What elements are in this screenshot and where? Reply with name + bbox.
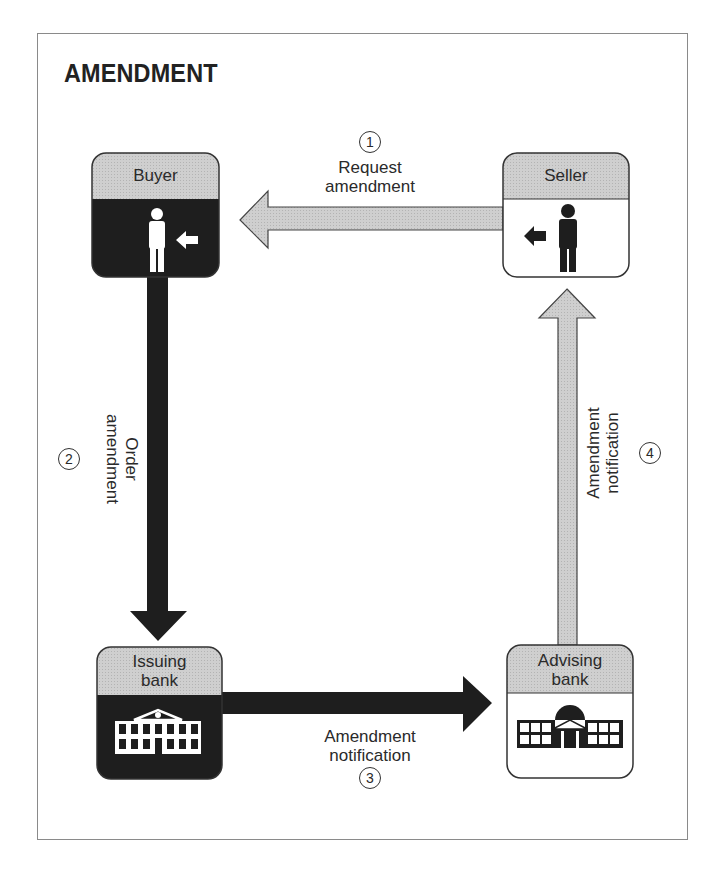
- step-3-label: Amendment notification: [300, 727, 440, 765]
- step-4-line1: Amendment: [584, 378, 603, 528]
- step-number-1: 1: [359, 131, 381, 153]
- step-number-2: 2: [58, 448, 80, 470]
- issuing-bank-label-line2: bank: [97, 671, 222, 690]
- step-4-line2: notification: [603, 378, 622, 528]
- arrow-amendment-notification-3: [222, 676, 492, 732]
- step-1-line1: Request: [300, 158, 440, 177]
- issuing-bank-label: Issuing bank: [97, 652, 222, 690]
- advising-bank-label-line2: bank: [507, 670, 633, 689]
- step-2-line1: Order: [122, 389, 141, 529]
- step-2-line2: amendment: [103, 389, 122, 529]
- step-number-3: 3: [359, 767, 381, 789]
- buyer-label: Buyer: [92, 166, 219, 185]
- issuing-bank-label-line1: Issuing: [97, 652, 222, 671]
- step-2-label: Order amendment: [103, 389, 141, 529]
- step-1-label: Request amendment: [300, 158, 440, 196]
- arrow-request-amendment: [240, 191, 503, 248]
- step-number-4: 4: [639, 442, 661, 464]
- seller-label: Seller: [503, 166, 629, 185]
- advising-bank-label: Advising bank: [507, 651, 633, 689]
- step-3-line1: Amendment: [300, 727, 440, 746]
- advising-bank-label-line1: Advising: [507, 651, 633, 670]
- step-3-line2: notification: [300, 746, 440, 765]
- step-4-label: Amendment notification: [584, 378, 622, 528]
- step-1-line2: amendment: [300, 177, 440, 196]
